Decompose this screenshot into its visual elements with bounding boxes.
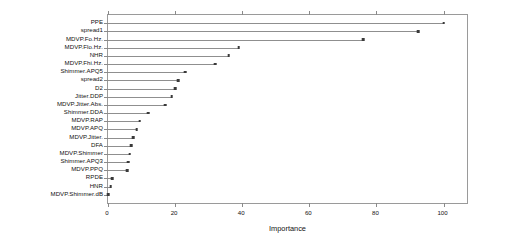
lollipop-row bbox=[108, 138, 467, 139]
lollipop-dot bbox=[139, 120, 142, 123]
lollipop-stem bbox=[108, 48, 239, 49]
lollipop-row bbox=[108, 146, 467, 147]
x-axis-tick-top bbox=[309, 11, 310, 15]
x-axis-tick-label: 60 bbox=[296, 208, 320, 218]
lollipop-row bbox=[108, 178, 467, 179]
x-axis-tick-bottom bbox=[376, 203, 377, 207]
lollipop-dot bbox=[111, 177, 114, 180]
lollipop-stem bbox=[108, 23, 444, 24]
lollipop-stem bbox=[108, 64, 215, 65]
lollipop-dot bbox=[238, 46, 241, 49]
lollipop-stem bbox=[108, 72, 185, 73]
lollipop-row bbox=[108, 105, 467, 106]
lollipop-row bbox=[108, 48, 467, 49]
lollipop-row bbox=[108, 154, 467, 155]
lollipop-row bbox=[108, 162, 467, 163]
lollipop-row bbox=[108, 64, 467, 65]
lollipop-row bbox=[108, 23, 467, 24]
x-axis-tick-label-group: 020406080100 bbox=[107, 208, 468, 220]
lollipop-dot bbox=[442, 22, 445, 25]
lollipop-stem bbox=[108, 105, 165, 106]
lollipop-dot bbox=[174, 87, 177, 90]
x-axis-title: Importance bbox=[107, 224, 468, 233]
lollipop-dot bbox=[135, 128, 138, 131]
lollipop-dot bbox=[128, 153, 131, 156]
lollipop-dot bbox=[362, 38, 365, 41]
x-axis-tick-top bbox=[242, 11, 243, 15]
lollipop-row bbox=[108, 56, 467, 57]
lollipop-stem bbox=[108, 129, 137, 130]
x-axis-tick-top bbox=[444, 11, 445, 15]
x-axis-tick-bottom bbox=[175, 203, 176, 207]
lollipop-row bbox=[108, 170, 467, 171]
lollipop-dot bbox=[132, 136, 135, 139]
lollipop-stem bbox=[108, 154, 130, 155]
lollipop-dot bbox=[164, 104, 167, 107]
lollipop-dot bbox=[109, 185, 112, 188]
lollipop-stem bbox=[108, 40, 363, 41]
x-axis-tick-bottom bbox=[309, 203, 310, 207]
x-axis-tick-label: 100 bbox=[431, 208, 455, 218]
x-axis-tick-label: 0 bbox=[95, 208, 119, 218]
lollipop-dot bbox=[227, 54, 230, 57]
lollipop-stem bbox=[108, 97, 172, 98]
lollipop-row bbox=[108, 80, 467, 81]
lollipop-dot bbox=[147, 112, 150, 115]
lollipop-row bbox=[108, 40, 467, 41]
x-axis-tick-top bbox=[376, 11, 377, 15]
x-axis-tick-top bbox=[175, 11, 176, 15]
lollipop-dot bbox=[130, 144, 133, 147]
lollipop-row bbox=[108, 31, 467, 32]
lollipop-dot bbox=[417, 30, 420, 33]
lollipop-dot bbox=[214, 63, 217, 66]
lollipop-dot bbox=[126, 169, 129, 172]
lollipop-dot bbox=[107, 193, 110, 196]
x-axis-tick-label: 20 bbox=[162, 208, 186, 218]
lollipop-row bbox=[108, 187, 467, 188]
x-axis-tick-bottom bbox=[444, 203, 445, 207]
lollipop-row bbox=[108, 121, 467, 122]
lollipop-dot bbox=[127, 161, 130, 164]
lollipop-stem bbox=[108, 146, 131, 147]
y-axis-tick-label: MDVP.Shimmer.dB bbox=[0, 189, 103, 199]
variable-importance-chart: PPEspread1MDVP.Fo.Hz.MDVP.Flo.Hz.NHRMDVP… bbox=[0, 0, 510, 252]
lollipop-row bbox=[108, 89, 467, 90]
lollipop-stem bbox=[108, 113, 148, 114]
lollipop-dot bbox=[184, 71, 187, 74]
x-axis-tick-top bbox=[108, 11, 109, 15]
x-axis-tick-label: 40 bbox=[229, 208, 253, 218]
lollipop-row bbox=[108, 195, 467, 196]
lollipop-row bbox=[108, 72, 467, 73]
lollipop-dot bbox=[170, 95, 173, 98]
lollipop-stem bbox=[108, 162, 128, 163]
lollipop-row bbox=[108, 129, 467, 130]
y-axis-label-group: PPEspread1MDVP.Fo.Hz.MDVP.Flo.Hz.NHRMDVP… bbox=[0, 14, 103, 204]
lollipop-stem bbox=[108, 56, 229, 57]
plot-panel bbox=[107, 14, 468, 204]
x-axis-tick-bottom bbox=[108, 203, 109, 207]
lollipop-dot bbox=[177, 79, 180, 82]
lollipop-row bbox=[108, 113, 467, 114]
lollipop-row bbox=[108, 97, 467, 98]
x-axis-tick-label: 80 bbox=[363, 208, 387, 218]
lollipop-stem bbox=[108, 89, 175, 90]
lollipop-stem bbox=[108, 121, 140, 122]
lollipop-stem bbox=[108, 170, 127, 171]
x-axis-tick-bottom bbox=[242, 203, 243, 207]
lollipop-stem bbox=[108, 31, 418, 32]
lollipop-stem bbox=[108, 80, 178, 81]
lollipop-stem bbox=[108, 138, 133, 139]
